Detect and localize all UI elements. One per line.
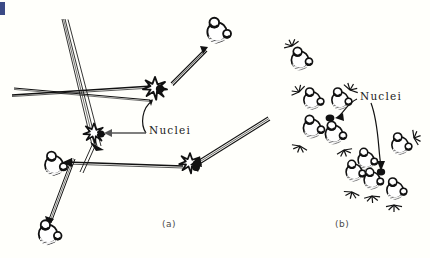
nucleus-dot-b1 xyxy=(326,114,335,121)
impact-rays-b-d2 xyxy=(342,190,359,201)
molecule-a-left xyxy=(45,152,67,176)
nucleus-dot-a2 xyxy=(97,130,104,137)
impact-rays-b-c4 xyxy=(336,147,353,159)
impact-rays-b-c1 xyxy=(288,82,305,97)
molecule-b-c2 xyxy=(332,88,352,110)
molecule-a-upper-right xyxy=(207,18,231,44)
panel-b xyxy=(282,36,424,212)
molecule-b-c3 xyxy=(303,115,324,138)
figure-drawing xyxy=(0,0,430,258)
nucleus-dot-a1 xyxy=(156,85,164,93)
molecule-b-top xyxy=(291,47,312,70)
molecule-b-d1 xyxy=(358,148,377,169)
impact-rays-b-bottom xyxy=(386,205,402,212)
impact-rays-b-right xyxy=(411,128,423,145)
recoil-track-upper-right xyxy=(171,46,208,86)
impact-rays-b-c2 xyxy=(343,80,360,94)
track-below-middle-star xyxy=(80,143,96,173)
impact-rays-b-c3 xyxy=(290,143,307,155)
recoil-track-left xyxy=(62,158,183,168)
molecule-a-lower-left xyxy=(39,220,62,245)
molecule-b-right xyxy=(392,133,412,155)
nuclei-leader-arrowhead-a2 xyxy=(104,129,112,137)
nuclei-label-panel-a: Nuclei xyxy=(149,124,191,136)
incoming-track-lower-right xyxy=(190,117,270,167)
nuclei-label-panel-b: Nuclei xyxy=(360,90,402,102)
impact-rays-b-d3 xyxy=(364,195,381,203)
panel-a xyxy=(12,18,270,246)
panel-caption-a: (a) xyxy=(162,219,176,229)
molecule-b-c4 xyxy=(325,121,346,144)
panel-caption-b: (b) xyxy=(335,219,349,229)
figure-root: Nuclei Nuclei (a) (b) xyxy=(0,0,430,258)
nuclei-leader-arrowhead-b1 xyxy=(335,113,344,121)
molecule-b-bottom xyxy=(387,178,407,200)
molecule-b-c1 xyxy=(304,88,324,110)
